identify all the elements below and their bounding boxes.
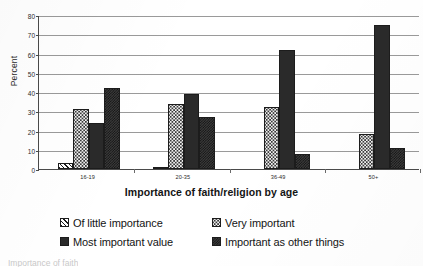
bar [390,148,406,169]
y-tick-mark [36,151,40,152]
legend-swatch-icon [60,237,69,246]
cut-off-caption: Importance of faith [8,258,78,267]
legend-swatch-icon [60,218,69,227]
bar [153,167,169,169]
legend-swatch-icon [212,218,221,227]
legend-item: Very important [212,217,390,229]
bar [279,50,295,169]
x-tick-mark [420,169,421,173]
y-tick-label: 20 [15,128,35,135]
y-tick-label: 70 [15,32,35,39]
bar [104,88,120,169]
y-tick-mark [36,112,40,113]
y-tick-mark [36,35,40,36]
gridline [39,55,419,56]
plot-area: Percent 01020304050607080 16-1920-3536-4… [0,0,423,186]
y-tick-label: 50 [15,70,35,77]
y-tick-mark [36,16,40,17]
legend-item: Important as other things [212,236,390,248]
bar [58,163,74,169]
x-tick-mark [230,169,231,173]
gridline [39,74,419,75]
bar [73,109,89,169]
x-tick-label: 36-49 [271,174,286,180]
bar [359,134,375,169]
bar [264,107,280,169]
legend-label: Important as other things [225,236,344,248]
x-tick-mark [134,169,135,173]
legend-item: Of little importance [60,217,212,229]
legend-label: Of little importance [73,217,163,229]
bar [199,117,215,169]
x-tick-label: 50+ [368,174,378,180]
x-tick-label: 20-35 [175,174,190,180]
axes-frame [38,16,419,170]
y-tick-label: 60 [15,51,35,58]
y-tick-label: 40 [15,90,35,97]
bar [295,154,311,169]
gridline [39,35,419,36]
y-tick-mark [36,74,40,75]
y-tick-label: 80 [15,13,35,20]
x-axis-title: Importance of faith/religion by age [0,186,423,198]
x-tick-label: 16-19 [80,174,95,180]
x-tick-mark [325,169,326,173]
y-axis-tick-labels: 01020304050607080 [13,0,35,186]
y-tick-mark [36,170,40,171]
gridline [39,16,419,17]
chart-legend: Of little importanceVery importantMost i… [60,213,390,251]
legend-swatch-icon [212,237,221,246]
legend-label: Most important value [73,236,173,248]
legend-label: Very important [225,217,295,229]
bar [89,123,105,169]
bar [168,104,184,169]
bar [374,25,390,169]
legend-item: Most important value [60,236,212,248]
y-tick-mark [36,55,40,56]
bar [184,94,200,169]
gridline [39,112,419,113]
y-tick-mark [36,93,40,94]
y-tick-label: 10 [15,147,35,154]
y-tick-label: 30 [15,109,35,116]
y-tick-mark [36,132,40,133]
y-tick-label: 0 [15,167,35,174]
gridline [39,93,419,94]
